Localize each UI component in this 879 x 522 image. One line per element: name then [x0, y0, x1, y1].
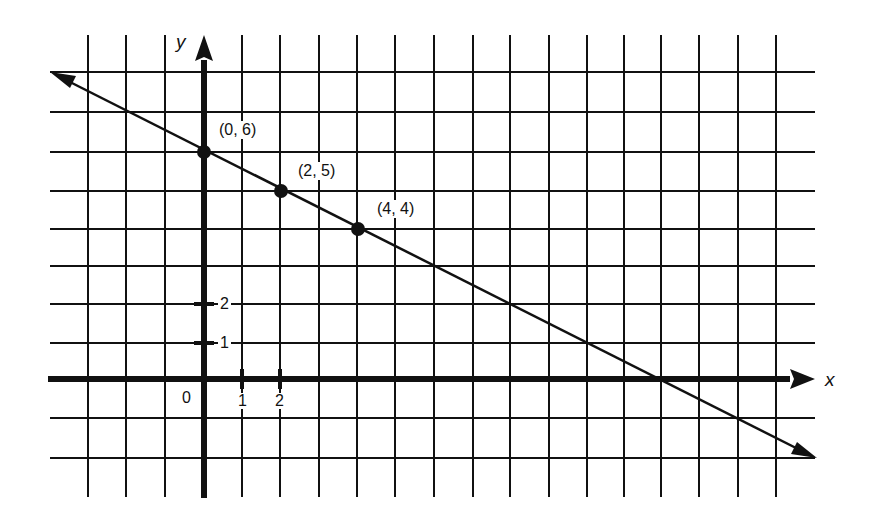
point-4-4 [351, 222, 365, 236]
point-label-4-4: (4, 4) [375, 200, 416, 218]
line-arrow-right-icon [791, 442, 817, 458]
y-tick-label-2: 2 [218, 296, 231, 312]
coordinate-plane [0, 0, 879, 522]
x-tick-label-2: 2 [275, 393, 284, 409]
y-tick-label-1: 1 [218, 335, 231, 351]
point-label-2-5: (2, 5) [296, 162, 337, 180]
origin-label: 0 [182, 390, 191, 406]
x-axis-label: x [825, 370, 835, 389]
x-axis-arrow-icon [790, 369, 815, 389]
point-0-6 [197, 145, 211, 159]
x-tick-label-1: 1 [238, 393, 247, 409]
line-arrow-left-icon [50, 72, 76, 88]
y-axis-label: y [176, 32, 186, 51]
point-2-5 [274, 184, 288, 198]
y-axis-arrow-icon [195, 35, 213, 61]
point-label-0-6: (0, 6) [217, 121, 258, 139]
